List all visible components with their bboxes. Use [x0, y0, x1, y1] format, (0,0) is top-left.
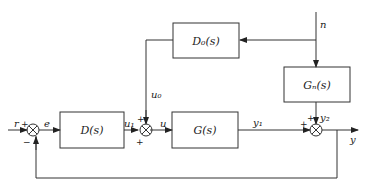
signal-u0-label: u₀ — [151, 89, 161, 100]
sum1-plus-sign: + — [21, 119, 29, 129]
signal-u1-label: u₁ — [124, 118, 134, 129]
block-g-label: G(s) — [193, 124, 216, 137]
sum2-plus-bottom-sign: + — [136, 137, 144, 147]
sum1-minus-sign: − — [23, 137, 31, 147]
signal-y2-label: y₂ — [319, 112, 330, 123]
block-d-label: D(s) — [79, 124, 103, 137]
sum3-plus-top-sign: + — [307, 113, 315, 123]
sum2-plus-top-sign: + — [137, 114, 145, 124]
feedback-line — [36, 130, 337, 178]
block-gn-label: Gₙ(s) — [303, 79, 330, 92]
block-d0-label: D₀(s) — [191, 35, 219, 48]
signal-r-label: r — [14, 118, 20, 129]
sum-junction-3 — [310, 124, 322, 136]
signal-e-label: e — [44, 118, 50, 129]
signal-n-label: n — [320, 19, 326, 30]
block-diagram: D(s) G(s) D₀(s) Gₙ(s) r e u₁ u u₀ y₁ y₂ … — [0, 0, 366, 188]
sum-junction-1 — [27, 124, 39, 136]
signal-y1-label: y₁ — [252, 117, 263, 128]
signal-u-label: u — [160, 118, 166, 129]
signal-y-label: y — [349, 134, 356, 145]
u0-line — [146, 40, 173, 123]
